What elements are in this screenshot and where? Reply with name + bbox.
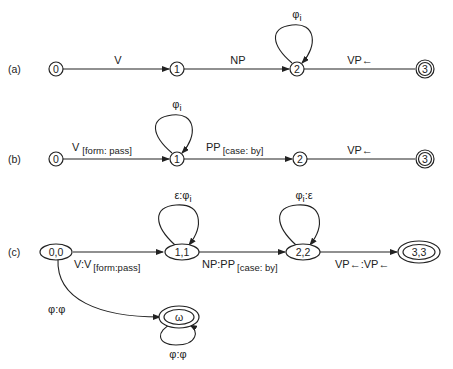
self-loop-11 [159, 205, 199, 245]
svg-text:3: 3 [422, 63, 428, 75]
svg-text:ω: ω [175, 311, 183, 323]
self-loop-22 [280, 205, 320, 245]
node-3-final: 3 [416, 60, 434, 78]
node-1: 1 [170, 62, 184, 76]
part-b-label: (b) [8, 153, 21, 165]
svg-text:3: 3 [422, 153, 428, 165]
svg-text:0: 0 [53, 63, 59, 75]
loop-label-phi-i: φi [292, 8, 301, 23]
loop-label-phi-i-eps: φi:ε [295, 189, 312, 204]
edge-label-NPPP-case-by: NP:PP[case: by] [202, 258, 278, 273]
fst-diagram: (a) 0 1 2 3 V NP φi VP← (b) [0, 0, 453, 369]
loop-label-phi-phi-omega: φ:φ [169, 348, 186, 360]
edge-label-PP-case-by: PP[case: by] [206, 141, 263, 156]
svg-text:1: 1 [174, 153, 180, 165]
svg-text:1: 1 [174, 63, 180, 75]
edge-label-VP-VP: VP←:VP← [335, 258, 389, 270]
svg-text:2,2: 2,2 [296, 246, 311, 258]
node-11: 1,1 [165, 244, 199, 260]
loop-label-phi-i: φi [172, 98, 181, 113]
svg-text:0: 0 [53, 153, 59, 165]
edge-label-VP: VP← [347, 144, 373, 156]
node-3-final: 3 [416, 150, 434, 168]
svg-text:3,3: 3,3 [412, 246, 427, 258]
svg-text:0,0: 0,0 [49, 246, 64, 258]
part-a: (a) 0 1 2 3 V NP φi VP← [8, 8, 434, 78]
node-00: 0,0 [40, 244, 72, 260]
edge-label-V: V [114, 54, 122, 66]
part-b: (b) 0 1 2 3 V[form: pass] φi PP[case: by… [8, 98, 434, 168]
node-0: 0 [49, 62, 63, 76]
node-omega-final: ω [159, 306, 199, 328]
node-33-final: 3,3 [398, 241, 440, 263]
svg-text:2: 2 [297, 153, 303, 165]
node-22: 2,2 [286, 244, 320, 260]
svg-text:1,1: 1,1 [175, 246, 190, 258]
edge-label-VP: VP← [347, 54, 373, 66]
self-loop-1 [155, 115, 192, 153]
part-c: (c) 0,0 1,1 2,2 3,3 ω V:V[for [8, 189, 440, 360]
node-1: 1 [170, 152, 184, 166]
edge-label-NP: NP [230, 54, 245, 66]
part-c-label: (c) [8, 246, 20, 258]
node-2: 2 [290, 62, 304, 76]
edge-label-V-form-pass: V[form: pass] [72, 141, 132, 156]
self-loop-2 [275, 25, 312, 63]
svg-text:2: 2 [294, 63, 300, 75]
loop-label-eps-phi-i: ε:φi [174, 189, 191, 204]
edge-label-VV-form-pass: V:V[form:pass] [74, 258, 140, 273]
node-2: 2 [293, 152, 307, 166]
part-a-label: (a) [8, 63, 21, 75]
edge-label-phi-phi-to-omega: φ:φ [48, 303, 65, 315]
node-0: 0 [49, 152, 63, 166]
